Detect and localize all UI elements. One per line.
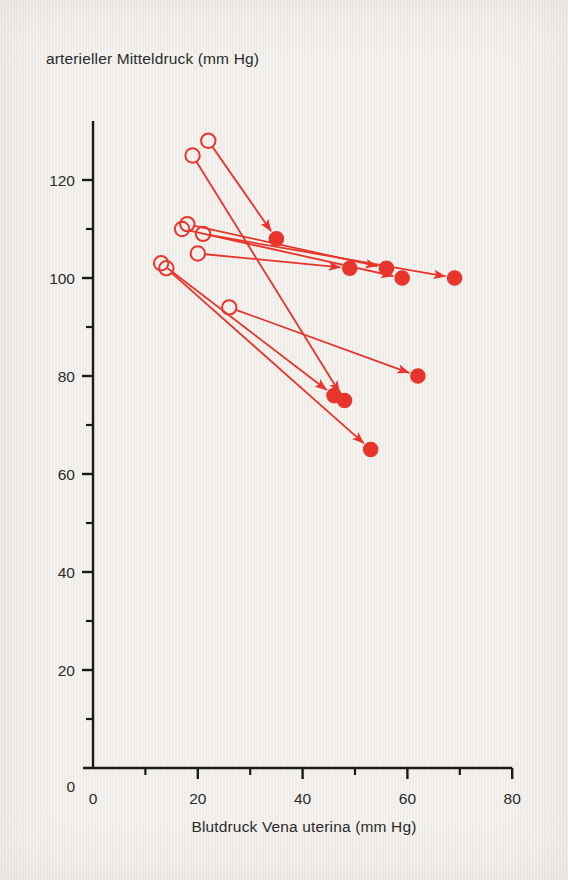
x-axis-title: Blutdruck Vena uterina (mm Hg) (0, 818, 568, 836)
scatter-plot: 204060801001200020406080 (0, 0, 568, 880)
arrows-group (167, 147, 445, 443)
chart-page: arterieller Mitteldruck (mm Hg) 20406080… (0, 0, 568, 880)
y-tick-label: 80 (58, 368, 76, 385)
data-point-after (337, 393, 351, 407)
data-point-after (395, 271, 409, 285)
data-point-after (269, 232, 283, 246)
transition-arrow (172, 273, 364, 443)
data-point-before (185, 148, 199, 162)
transition-arrow (167, 268, 326, 390)
transition-arrow (205, 254, 340, 267)
y-tick-label: 20 (58, 662, 76, 679)
data-point-after (364, 442, 378, 456)
axes-group (82, 121, 512, 779)
y-tick-label: 60 (58, 466, 76, 483)
x-tick-label: 80 (504, 790, 522, 807)
x-tick-label: 40 (294, 790, 312, 807)
y-tick-label: 100 (49, 270, 75, 287)
y-tick-label: 40 (58, 564, 76, 581)
data-point-after (411, 369, 425, 383)
data-point-after (343, 261, 357, 275)
x-tick-label: 20 (189, 790, 207, 807)
y-tick-label: 120 (49, 172, 75, 189)
transition-arrow (211, 235, 446, 276)
x-tick-label: 60 (399, 790, 417, 807)
tick-labels-group: 204060801001200020406080 (49, 172, 521, 807)
x-tick-label: 0 (89, 790, 98, 807)
data-point-after (379, 261, 393, 275)
data-point-before (191, 246, 205, 260)
markers-group (154, 134, 462, 457)
data-point-after (447, 271, 461, 285)
y-tick-label-zero: 0 (66, 778, 75, 795)
transition-arrow (213, 147, 271, 231)
data-point-before (222, 300, 236, 314)
data-point-before (201, 134, 215, 148)
